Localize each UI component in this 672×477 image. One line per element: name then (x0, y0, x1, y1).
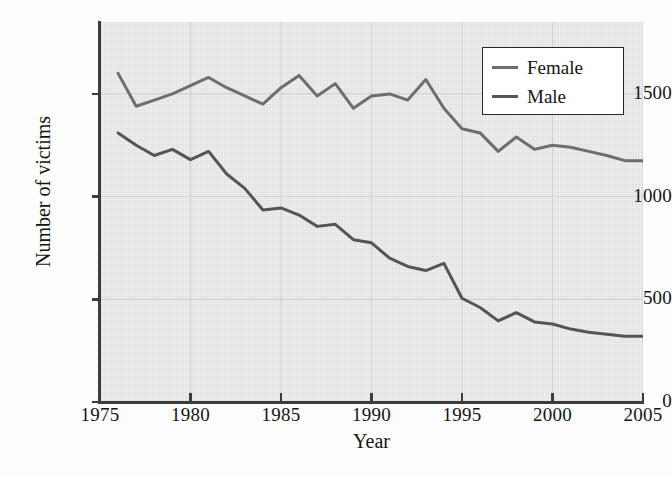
x-tick-label: 1995 (422, 404, 502, 426)
x-tick-mark (642, 393, 645, 402)
y-tick-label: 1000 (588, 185, 672, 207)
x-tick-label: 1975 (60, 404, 140, 426)
y-tick-label: 500 (588, 287, 672, 309)
x-tick-label: 2005 (603, 404, 672, 426)
legend-label-female: Female (527, 58, 583, 77)
x-tick-mark (461, 393, 464, 402)
legend-line-swatch-male (492, 95, 518, 98)
y-axis-title: Number of victims (32, 52, 55, 332)
chart-legend: Female Male (482, 47, 624, 115)
x-tick-mark (189, 393, 192, 402)
y-tick-mark (92, 93, 101, 96)
x-tick-mark (370, 393, 373, 402)
series-line-male (118, 133, 643, 336)
y-axis-line (98, 21, 101, 403)
legend-item-female: Female (492, 53, 623, 82)
x-tick-mark (280, 393, 283, 402)
y-tick-mark (92, 298, 101, 301)
x-tick-mark (99, 393, 102, 402)
y-tick-mark (92, 195, 101, 198)
legend-line-swatch-female (492, 66, 518, 69)
x-tick-label: 1990 (332, 404, 412, 426)
x-tick-label: 1980 (151, 404, 231, 426)
x-tick-label: 2000 (513, 404, 593, 426)
x-tick-label: 1985 (241, 404, 321, 426)
x-axis-title: Year (100, 430, 643, 453)
x-tick-mark (551, 393, 554, 402)
legend-label-male: Male (527, 87, 566, 106)
chart-figure: 050010001500 197519801985199019952000200… (0, 0, 672, 477)
legend-item-male: Male (492, 82, 623, 111)
